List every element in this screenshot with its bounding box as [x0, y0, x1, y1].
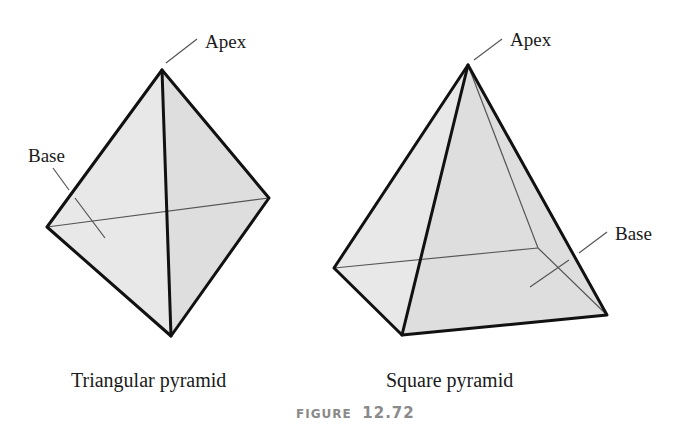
- tri-apex-label: Apex: [205, 31, 247, 52]
- sq-apex-label: Apex: [510, 29, 552, 50]
- sq-base-leader-outer: [579, 232, 607, 253]
- tri-caption: Triangular pyramid: [71, 369, 226, 392]
- figure-number-value: 12.72: [362, 404, 414, 422]
- tri-apex-leader: [166, 39, 197, 63]
- sq-caption: Square pyramid: [386, 369, 513, 392]
- tri-base-leader-outer: [53, 168, 69, 190]
- figure-number: Figure 12.72: [296, 403, 415, 422]
- figure-prefix: Figure: [296, 407, 352, 421]
- figure-12-72: Apex Base Triangular pyramid Apex Base S…: [0, 0, 698, 429]
- square-pyramid: Apex Base Square pyramid: [334, 29, 652, 392]
- tri-face-right: [162, 70, 269, 336]
- tri-base-label: Base: [28, 145, 65, 166]
- triangular-pyramid: Apex Base Triangular pyramid: [28, 31, 269, 392]
- sq-base-label: Base: [615, 223, 652, 244]
- sq-apex-leader: [474, 39, 502, 60]
